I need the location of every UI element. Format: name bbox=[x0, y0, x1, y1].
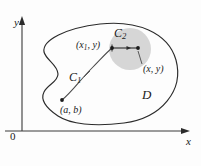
start-point-label: (a, b) bbox=[60, 105, 82, 115]
curve-c2-label-base: C bbox=[114, 26, 122, 40]
end-point-label: (x, y) bbox=[143, 64, 164, 74]
mid-point-label-suffix: , y) bbox=[87, 39, 100, 50]
mid-point-label: (x1, y) bbox=[76, 40, 100, 52]
origin-label: 0 bbox=[10, 131, 16, 142]
curve-c2-label: C2 bbox=[114, 27, 126, 41]
region-d-label: D bbox=[142, 88, 151, 101]
y-axis bbox=[19, 16, 25, 131]
x-axis bbox=[5, 128, 190, 134]
x-axis-arrowhead-icon bbox=[181, 128, 190, 134]
curve-c1-label: C1 bbox=[69, 71, 81, 85]
figure-container: y x 0 (x1, y) (x, y) C1 C2 D (a, b) bbox=[0, 0, 201, 166]
start-point-marker bbox=[60, 98, 64, 102]
x-axis-label: x bbox=[186, 136, 191, 147]
mid-point-label-prefix: (x bbox=[76, 39, 84, 50]
figure-drawing bbox=[0, 0, 201, 166]
mid-point-marker bbox=[110, 46, 114, 50]
y-axis-label: y bbox=[14, 17, 19, 28]
curve-c2-label-subscript: 2 bbox=[122, 31, 126, 41]
curve-c1-label-base: C bbox=[69, 70, 77, 84]
y-axis-arrowhead-icon bbox=[19, 16, 25, 25]
end-point-marker bbox=[136, 46, 140, 50]
leader-line-c1 bbox=[84, 71, 90, 77]
curve-c1-label-subscript: 1 bbox=[77, 75, 81, 85]
